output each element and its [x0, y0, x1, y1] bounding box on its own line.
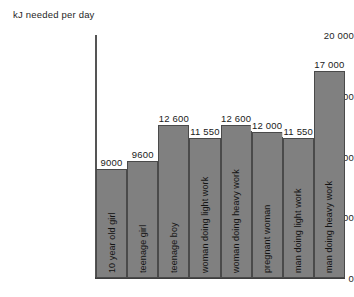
bar-value-label: 17 000: [313, 59, 345, 70]
bar: woman doing light work: [189, 138, 220, 278]
bar-value-label: 12 600: [220, 113, 252, 124]
bar: pregnant woman: [252, 132, 283, 278]
bar-chart: kJ needed per day 0500010 00015 00020 00…: [0, 0, 354, 297]
bar: woman doing heavy work: [221, 125, 252, 278]
bar-value-label: 11 550: [283, 126, 315, 137]
plot-area: 10 year old girl9000teenage girl9600teen…: [96, 35, 345, 278]
bar: man doing light work: [283, 138, 314, 278]
bar-value-label: 9000: [100, 157, 124, 168]
bar-category-label: woman doing light work: [200, 177, 210, 273]
bar-category-label: man doing light work: [293, 188, 303, 273]
bar-category-label: woman doing heavy work: [231, 169, 241, 273]
bar-value-label: 12 600: [158, 113, 190, 124]
bar-category-label: pregnant woman: [262, 205, 272, 273]
bar-value-label: 9600: [131, 149, 155, 160]
bar: 10 year old girl: [96, 169, 127, 278]
bar: teenage boy: [158, 125, 189, 278]
bar-category-label: teenage girl: [138, 225, 148, 273]
bar: teenage girl: [127, 161, 158, 278]
bar-value-label: 12 000: [251, 120, 283, 131]
bar-category-label: man doing heavy work: [324, 181, 334, 273]
bar: man doing heavy work: [314, 71, 345, 278]
bar-value-label: 11 550: [189, 126, 221, 137]
bar-category-label: 10 year old girl: [107, 212, 117, 273]
bar-category-label: teenage boy: [169, 222, 179, 273]
y-axis-title: kJ needed per day: [13, 9, 95, 20]
